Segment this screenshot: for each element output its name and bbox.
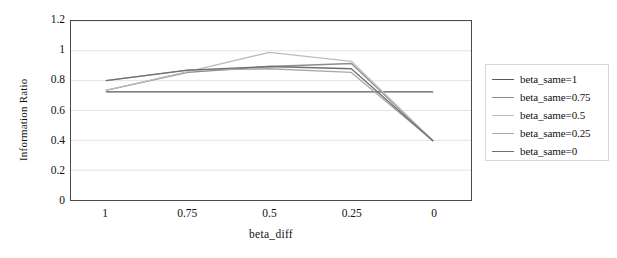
plot-area — [70, 20, 472, 201]
y-axis-tick: 0.4 — [35, 135, 65, 147]
legend-label: beta_same=0.25 — [520, 127, 590, 139]
y-axis-label: Information Ratio — [14, 60, 32, 180]
y-axis-tick: 0.6 — [35, 105, 65, 117]
legend-item[interactable]: beta_same=0 — [492, 142, 604, 160]
series-line — [106, 52, 433, 141]
legend-item[interactable]: beta_same=0.5 — [492, 106, 604, 124]
legend-item[interactable]: beta_same=0.25 — [492, 124, 604, 142]
x-axis-tick: 0.25 — [330, 207, 374, 219]
legend-item[interactable]: beta_same=0.75 — [492, 88, 604, 106]
legend-label: beta_same=0.5 — [520, 109, 585, 121]
legend-item[interactable]: beta_same=1 — [492, 70, 604, 88]
y-axis-tick: 0.8 — [35, 75, 65, 87]
legend-label: beta_same=1 — [520, 73, 577, 85]
x-axis-tick: 0 — [412, 207, 456, 219]
x-axis-tick: 1 — [83, 207, 127, 219]
y-axis-tick: 0 — [35, 195, 65, 207]
series-line — [106, 64, 433, 142]
legend-swatch-icon — [492, 79, 514, 80]
x-axis-tick: 0.75 — [165, 207, 209, 219]
x-axis-label: beta_diff — [70, 228, 472, 240]
legend-swatch-icon — [492, 97, 514, 98]
x-axis-tick: 0.5 — [248, 207, 292, 219]
y-axis-tick: 1 — [35, 44, 65, 56]
legend-swatch-icon — [492, 133, 514, 134]
plot-svg — [71, 21, 471, 200]
y-axis-tick: 0.2 — [35, 165, 65, 177]
line-chart: Information Ratio 00.20.40.60.811.2 10.7… — [0, 0, 617, 258]
series-line — [106, 66, 433, 141]
y-axis-tick: 1.2 — [35, 14, 65, 26]
legend-label: beta_same=0.75 — [520, 91, 590, 103]
legend-label: beta_same=0 — [520, 145, 577, 157]
legend-swatch-icon — [492, 151, 514, 152]
y-axis-tick-group: 00.20.40.60.811.2 — [33, 0, 65, 258]
legend: beta_same=1beta_same=0.75beta_same=0.5be… — [485, 64, 609, 161]
legend-swatch-icon — [492, 115, 514, 116]
